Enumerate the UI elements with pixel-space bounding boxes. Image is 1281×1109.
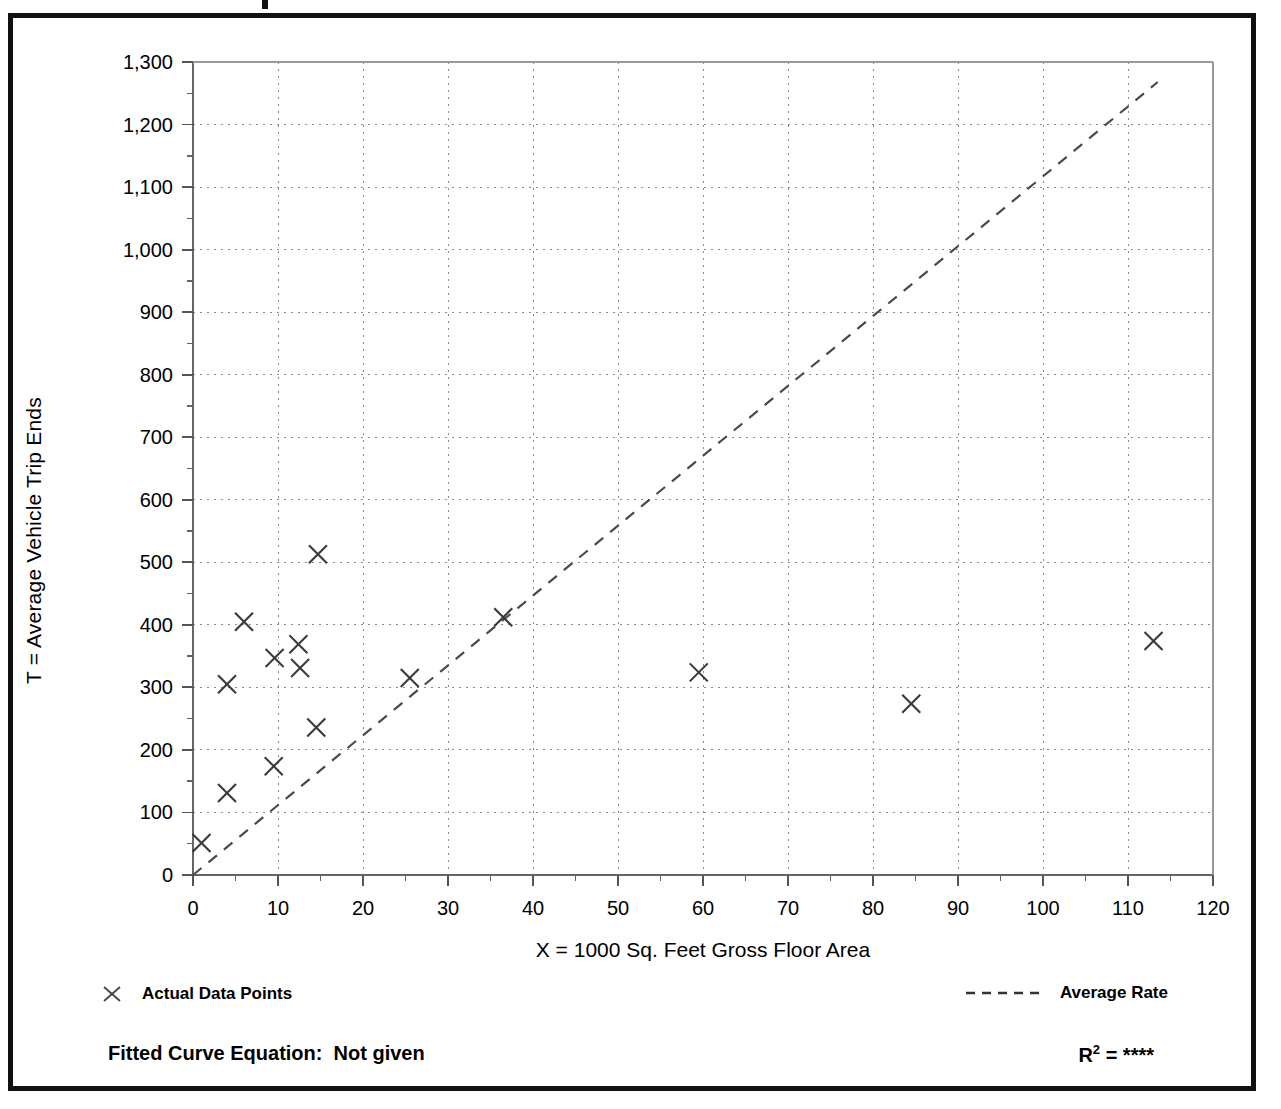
average-rate-trendline [193, 82, 1158, 875]
data-point-marker [307, 718, 325, 736]
data-point-marker [218, 784, 236, 802]
x-tick-label: 120 [1196, 897, 1229, 919]
x-tick-label: 100 [1026, 897, 1059, 919]
y-tick-label: 400 [140, 614, 173, 636]
y-tick-label: 0 [162, 864, 173, 886]
y-tick-label: 700 [140, 426, 173, 448]
y-tick-label: 800 [140, 364, 173, 386]
y-tick-label: 1,300 [123, 51, 173, 73]
data-point-markers [193, 545, 1163, 852]
axes-layer [182, 62, 1213, 886]
x-tick-label: 40 [522, 897, 544, 919]
legend-item-data-points: Actual Data Points [100, 983, 292, 1005]
r-squared-value: R2 = **** [1078, 1042, 1154, 1067]
r-squared-exponent: 2 [1093, 1042, 1100, 1057]
data-point-marker [218, 675, 236, 693]
y-tick-label: 600 [140, 489, 173, 511]
dashed-line-icon [964, 987, 1044, 999]
y-axis-title: T = Average Vehicle Trip Ends [22, 397, 46, 684]
x-tick-label: 60 [692, 897, 714, 919]
data-point-marker [309, 545, 327, 563]
data-point-marker [235, 613, 253, 631]
legend-label-data-points: Actual Data Points [142, 984, 292, 1004]
chart-area: 01002003004005006007008009001,0001,1001,… [0, 0, 1281, 1109]
y-tick-label: 1,000 [123, 239, 173, 261]
legend-item-average-rate: Average Rate [964, 983, 1168, 1003]
y-tick-label: 1,200 [123, 114, 173, 136]
data-point-marker [494, 608, 512, 626]
y-tick-label: 200 [140, 739, 173, 761]
y-tick-label: 100 [140, 801, 173, 823]
x-tick-label: 70 [777, 897, 799, 919]
x-tick-label: 80 [862, 897, 884, 919]
x-axis-title: X = 1000 Sq. Feet Gross Floor Area [193, 938, 1213, 962]
x-marker-icon [100, 983, 126, 1005]
x-tick-label: 20 [352, 897, 374, 919]
chart-page: 01002003004005006007008009001,0001,1001,… [0, 0, 1281, 1109]
data-point-marker [266, 649, 284, 667]
data-point-marker [902, 695, 920, 713]
trend-line [193, 82, 1158, 875]
fitted-curve-equation: Fitted Curve Equation: Not given [108, 1042, 425, 1065]
grid-layer [193, 62, 1213, 875]
data-point-marker [193, 834, 211, 852]
x-tick-label: 50 [607, 897, 629, 919]
x-tick-label: 30 [437, 897, 459, 919]
y-tick-label: 500 [140, 551, 173, 573]
data-point-marker [265, 757, 283, 775]
data-point-marker [401, 669, 419, 687]
legend: Actual Data Points Average Rate [100, 983, 1190, 1015]
x-tick-label: 90 [947, 897, 969, 919]
y-tick-label: 1,100 [123, 176, 173, 198]
data-point-marker [690, 663, 708, 681]
x-tick-label: 10 [267, 897, 289, 919]
x-tick-label: 0 [187, 897, 198, 919]
data-point-marker [289, 635, 307, 653]
legend-label-average-rate: Average Rate [1060, 983, 1168, 1003]
tick-labels-layer: 01002003004005006007008009001,0001,1001,… [123, 51, 1230, 919]
data-point-marker [1145, 632, 1163, 650]
footer: Fitted Curve Equation: Not given R2 = **… [108, 1042, 1190, 1076]
y-tick-label: 900 [140, 301, 173, 323]
y-tick-label: 300 [140, 676, 173, 698]
r-squared-symbol: R [1078, 1044, 1092, 1066]
r-squared-equals-value: = **** [1106, 1044, 1154, 1066]
data-point-marker [291, 659, 309, 677]
y-axis-title-wrap: T = Average Vehicle Trip Ends [46, 280, 86, 660]
x-tick-label: 110 [1112, 897, 1144, 919]
